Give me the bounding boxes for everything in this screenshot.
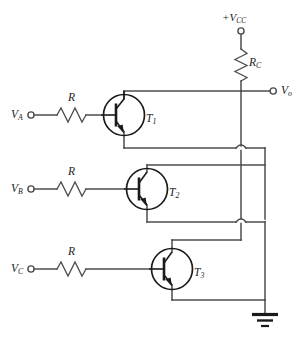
input-a-label: VA	[11, 109, 23, 121]
input-b-resistor-label: R	[68, 166, 75, 178]
input-a-resistor	[57, 108, 86, 122]
input-c-resistor-label: R	[68, 246, 75, 258]
collector-resistor-rc	[235, 49, 247, 81]
collector-resistor-label: RC	[249, 57, 261, 69]
wire-hop-lower	[236, 219, 246, 222]
input-c-resistor	[57, 262, 86, 276]
input-c-terminal[interactable]	[28, 266, 34, 272]
input-a-resistor-label: R	[68, 92, 75, 104]
transistor-t2-label: T2	[169, 187, 179, 199]
input-b-label: VB	[11, 183, 23, 195]
input-b-terminal[interactable]	[28, 186, 34, 192]
circuit-canvas	[0, 0, 301, 339]
supply-label: +VCC	[222, 12, 246, 23]
supply-terminal[interactable]	[238, 28, 244, 34]
input-b-resistor	[57, 182, 86, 196]
transistor-t1-label: T1	[146, 113, 156, 125]
input-a-terminal[interactable]	[28, 112, 34, 118]
output-terminal[interactable]	[270, 88, 276, 94]
transistor-t3	[149, 249, 193, 290]
circuit-schematic: +VCC RC Vo VA R T1 VB R T2 VC R T3	[0, 0, 301, 339]
ground-symbol	[252, 315, 278, 327]
transistor-t1	[101, 91, 145, 136]
input-c-label: VC	[11, 263, 23, 275]
transistor-t2	[124, 169, 168, 210]
transistor-t3-label: T3	[194, 267, 204, 279]
output-label: Vo	[281, 85, 292, 97]
